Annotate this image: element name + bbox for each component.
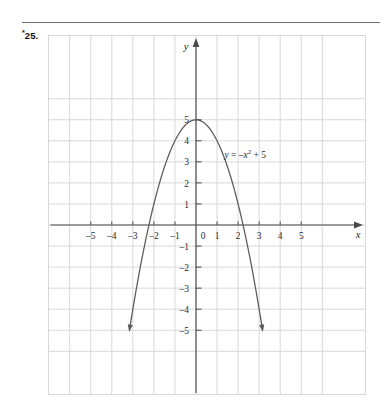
y-tick-label: 4 <box>184 136 189 146</box>
exercise-number: *25. <box>22 30 38 41</box>
y-tick-label: –1 <box>179 242 190 252</box>
x-tick-label: 4 <box>278 231 283 241</box>
x-tick-label: 5 <box>299 231 304 241</box>
x-tick-label: –4 <box>106 231 117 241</box>
y-tick-label: –5 <box>179 326 190 336</box>
x-tick-label: 3 <box>257 231 262 241</box>
figure-root: *25. –5–4–3–2–1012345–5–4–3–2–112345 yxy… <box>0 0 386 408</box>
y-axis-arrowhead <box>193 38 200 47</box>
y-tick-label: 1 <box>184 200 189 210</box>
axes <box>51 38 364 393</box>
x-tick-label: 2 <box>236 231 241 241</box>
x-tick-label: –2 <box>148 231 159 241</box>
y-tick-label: 3 <box>184 157 189 167</box>
curve-right-arrowhead <box>259 324 264 332</box>
x-axis-label: x <box>355 229 361 240</box>
x-tick-label: –5 <box>85 231 96 241</box>
exercise-number-text: 25. <box>25 30 39 41</box>
x-tick-label: 1 <box>215 231 220 241</box>
coordinate-plane-svg: –5–4–3–2–1012345–5–4–3–2–112345 yxy = –x… <box>48 35 366 395</box>
y-tick-label: 2 <box>184 179 189 189</box>
axis-tick-labels: –5–4–3–2–1012345–5–4–3–2–112345 <box>85 115 304 336</box>
graph-plot-area: –5–4–3–2–1012345–5–4–3–2–112345 yxy = –x… <box>48 35 366 395</box>
grid-lines <box>49 36 366 395</box>
x-tick-label: –1 <box>169 231 180 241</box>
y-tick-label: –4 <box>179 305 190 315</box>
x-axis-arrowhead <box>354 222 363 229</box>
y-tick-label: –3 <box>179 284 190 294</box>
y-tick-label: –2 <box>179 263 190 273</box>
origin-label: 0 <box>201 231 206 241</box>
curve-left-arrowhead <box>128 324 133 332</box>
header-rule <box>22 22 380 23</box>
grid-border <box>49 36 366 395</box>
x-tick-label: –3 <box>127 231 138 241</box>
y-axis-label: y <box>183 41 189 52</box>
equation-label: y = –x2 + 5 <box>223 148 266 159</box>
